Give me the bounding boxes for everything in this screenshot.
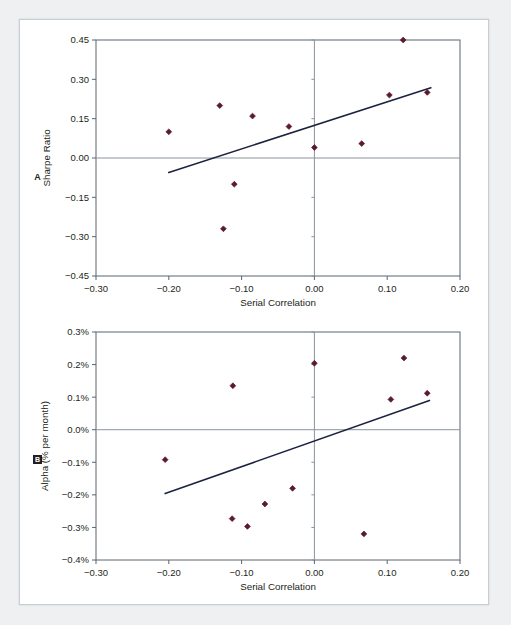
chart-panel-b: B 0.3%0.2%0.1%0.0%−0.1%−0.2%−0.3%−0.4%−0… <box>20 320 490 606</box>
y-axis-tick-label: −0.3% <box>62 522 90 533</box>
y-axis-tick-label: 0.00 <box>71 152 90 163</box>
y-axis-tick-label: 0.0% <box>67 424 89 435</box>
plot-frame <box>96 332 460 560</box>
x-axis-tick-label: −0.10 <box>230 567 254 578</box>
x-axis-tick-label: 0.10 <box>378 283 397 294</box>
data-point-marker <box>401 355 407 361</box>
data-point-marker <box>359 141 365 147</box>
data-point-marker <box>245 524 251 530</box>
data-point-marker <box>424 390 430 396</box>
data-point-marker <box>312 360 318 366</box>
x-axis-title: Serial Correlation <box>240 297 316 308</box>
data-point-marker <box>221 226 227 232</box>
y-axis-tick-label: 0.30 <box>71 74 90 85</box>
x-axis-tick-label: −0.30 <box>84 567 108 578</box>
data-point-marker <box>162 457 168 463</box>
trend-line <box>169 88 431 173</box>
chart-panel-a: A 0.450.300.150.00−0.15−0.30−0.45−0.30−0… <box>20 26 490 318</box>
y-axis-tick-label: 0.3% <box>67 326 89 337</box>
x-axis-tick-label: 0.10 <box>378 567 397 578</box>
x-axis-tick-label: 0.20 <box>451 283 470 294</box>
y-axis-tick-label: 0.15 <box>71 113 90 124</box>
y-axis-tick-label: −0.4% <box>62 554 90 565</box>
data-point-marker <box>424 90 430 96</box>
x-axis-tick-label: −0.10 <box>230 283 254 294</box>
figure-card: A 0.450.300.150.00−0.15−0.30−0.45−0.30−0… <box>19 19 489 605</box>
x-axis-tick-label: −0.30 <box>84 283 108 294</box>
y-axis-tick-label: 0.2% <box>67 359 89 370</box>
x-axis-title: Serial Correlation <box>240 581 316 592</box>
page-background: A 0.450.300.150.00−0.15−0.30−0.45−0.30−0… <box>0 0 511 625</box>
x-axis-tick-label: 0.00 <box>305 283 324 294</box>
x-axis-tick-label: 0.00 <box>305 567 324 578</box>
scatter-plot-alpha: 0.3%0.2%0.1%0.0%−0.1%−0.2%−0.3%−0.4%−0.3… <box>20 320 490 606</box>
data-point-marker <box>166 129 172 135</box>
y-axis-tick-label: −0.2% <box>62 489 90 500</box>
data-point-marker <box>312 145 318 151</box>
y-axis-tick-label: 0.1% <box>67 392 89 403</box>
data-point-marker <box>230 383 236 389</box>
panel-letter-a: A <box>33 173 42 182</box>
y-axis-tick-label: −0.45 <box>65 270 89 281</box>
data-point-marker <box>286 124 292 130</box>
panel-letter-b: B <box>33 455 42 464</box>
x-axis-tick-label: −0.20 <box>157 567 181 578</box>
data-point-marker <box>400 37 406 43</box>
data-point-marker <box>262 501 268 507</box>
data-point-marker <box>231 181 237 187</box>
y-axis-title: Sharpe Ratio <box>41 129 52 187</box>
y-axis-tick-label: −0.30 <box>65 231 89 242</box>
data-point-marker <box>229 516 235 522</box>
y-axis-tick-label: −0.1% <box>62 457 90 468</box>
data-point-marker <box>290 485 296 491</box>
data-point-marker <box>361 531 367 537</box>
trend-line <box>165 400 429 493</box>
data-point-marker <box>388 397 394 403</box>
data-point-marker <box>250 113 256 119</box>
x-axis-tick-label: 0.20 <box>451 567 470 578</box>
data-point-marker <box>217 103 223 109</box>
y-axis-tick-label: 0.45 <box>71 34 90 45</box>
x-axis-tick-label: −0.20 <box>157 283 181 294</box>
y-axis-tick-label: −0.15 <box>65 192 89 203</box>
y-axis-title: Alpha (% per month) <box>39 401 50 491</box>
data-point-marker <box>386 92 392 98</box>
scatter-plot-sharpe-ratio: 0.450.300.150.00−0.15−0.30−0.45−0.30−0.2… <box>20 26 490 318</box>
